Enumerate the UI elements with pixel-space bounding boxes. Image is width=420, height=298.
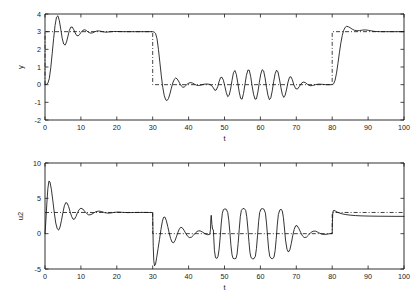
x-tick-label: 50	[221, 272, 229, 281]
x-tick-label: 80	[328, 272, 336, 281]
x-tick-label: 70	[292, 123, 300, 132]
x-tick-label: 10	[77, 123, 85, 132]
x-tick-label: 60	[256, 272, 264, 281]
x-tick-label: 10	[77, 272, 85, 281]
x-tick-label: 0	[43, 272, 47, 281]
top-axis-ticks	[45, 14, 404, 120]
x-tick-label: 90	[364, 123, 372, 132]
output-response-chart: 0102030405060708090100-2-101234 t y	[0, 0, 420, 149]
y-tick-label: 10	[33, 159, 41, 168]
x-tick-label: 40	[185, 123, 193, 132]
control-signal-chart: 0102030405060708090100-50510 t u2	[0, 149, 420, 298]
bottom-plot-frame	[45, 163, 404, 269]
bottom-y-axis-label: u2	[16, 212, 25, 220]
y-tick-label: 3	[37, 27, 41, 36]
top-y-axis-label: y	[16, 65, 25, 69]
y-tick-label: 1	[37, 63, 41, 72]
bottom-control-series	[45, 181, 404, 266]
x-tick-label: 100	[398, 272, 410, 281]
chart-panel-output: 0102030405060708090100-2-101234 t y	[0, 0, 420, 149]
top-reference-series	[45, 32, 404, 85]
y-tick-label: 0	[37, 229, 41, 238]
y-tick-label: 5	[37, 194, 41, 203]
top-axis-tick-labels: 0102030405060708090100-2-101234	[35, 10, 410, 132]
y-tick-label: 2	[37, 45, 41, 54]
bottom-x-axis-label: t	[223, 283, 226, 292]
x-tick-label: 20	[113, 272, 121, 281]
chart-panel-control: 0102030405060708090100-50510 t u2	[0, 149, 420, 298]
top-x-axis-label: t	[223, 134, 226, 143]
bottom-axis-ticks	[45, 163, 404, 269]
y-tick-label: -1	[35, 98, 41, 107]
x-tick-label: 20	[113, 123, 121, 132]
y-tick-label: -2	[35, 116, 41, 125]
x-tick-label: 80	[328, 123, 336, 132]
x-tick-label: 30	[149, 272, 157, 281]
figure-container: 0102030405060708090100-2-101234 t y 0102…	[0, 0, 420, 298]
y-tick-label: -5	[35, 265, 41, 274]
x-tick-label: 0	[43, 123, 47, 132]
bottom-reference-series	[45, 212, 404, 233]
x-tick-label: 90	[364, 272, 372, 281]
y-tick-label: 4	[37, 10, 41, 19]
x-tick-label: 60	[256, 123, 264, 132]
x-tick-label: 40	[185, 272, 193, 281]
top-output-series	[45, 16, 404, 101]
x-tick-label: 30	[149, 123, 157, 132]
y-tick-label: 0	[37, 80, 41, 89]
x-tick-label: 70	[292, 272, 300, 281]
x-tick-label: 50	[221, 123, 229, 132]
x-tick-label: 100	[398, 123, 410, 132]
top-plot-frame	[45, 14, 404, 120]
